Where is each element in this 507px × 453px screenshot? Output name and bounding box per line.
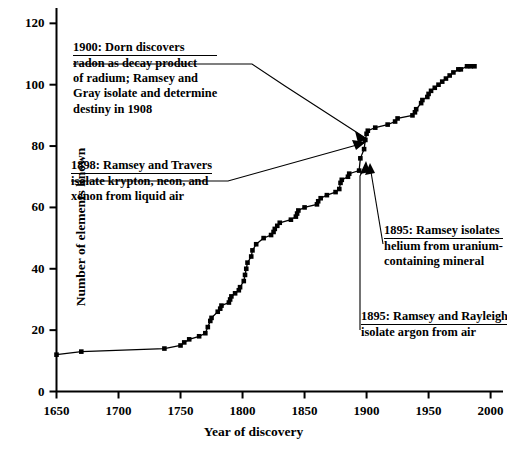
- annotation-helium: 1895: Ramsey isolates helium from uraniu…: [384, 223, 503, 269]
- data-point-marker: [395, 116, 400, 121]
- x-tick-label: 1700: [106, 403, 132, 419]
- annotation-travers-line-1: isolate krypton, neon, and: [71, 174, 212, 189]
- data-point-marker: [366, 128, 371, 133]
- data-point-marker: [420, 98, 425, 103]
- annotation-travers-head: 1898: Ramsey and Travers: [71, 158, 212, 174]
- data-point-marker: [302, 205, 307, 210]
- x-axis-ticks: [57, 392, 491, 399]
- data-point-marker: [197, 334, 202, 339]
- data-point-marker: [219, 303, 224, 308]
- y-tick-label: 120: [0, 15, 45, 31]
- annotation-dorn: 1900: Dorn discovers radon as decay prod…: [73, 40, 217, 117]
- data-point-marker: [238, 285, 243, 290]
- y-tick-label: 60: [0, 199, 45, 215]
- data-point-marker: [357, 168, 362, 173]
- annotation-helium-line-1: helium from uranium-: [384, 239, 503, 254]
- x-tick-label: 1950: [416, 403, 442, 419]
- annotation-travers: 1898: Ramsey and Travers isolate krypton…: [71, 158, 212, 204]
- annotation-dorn-head: 1900: Dorn discovers: [73, 40, 217, 56]
- element-discovery-chart: 020406080100120 165017001750180018501900…: [0, 0, 507, 453]
- leader-line-helium: [370, 166, 383, 244]
- data-point-marker: [54, 352, 59, 357]
- y-axis-ticks: [50, 23, 57, 391]
- annotation-argon-line-1: isolate argon from air: [361, 325, 507, 340]
- data-point-marker: [261, 236, 266, 241]
- data-point-marker: [79, 349, 84, 354]
- data-point-marker: [459, 67, 464, 72]
- annotation-argon: 1895: Ramsey and Rayleigh isolate argon …: [361, 309, 507, 340]
- data-point-marker: [373, 125, 378, 130]
- data-point-marker: [249, 254, 254, 259]
- data-point-marker: [277, 220, 282, 225]
- data-point-marker: [209, 316, 214, 321]
- data-point-marker: [254, 242, 259, 247]
- x-tick-label: 2000: [478, 403, 504, 419]
- y-tick-label: 20: [0, 322, 45, 338]
- annotation-dorn-line-3: Gray isolate and determine: [73, 86, 217, 101]
- x-axis-title: Year of discovery: [204, 424, 303, 440]
- x-tick-label: 1650: [44, 403, 70, 419]
- annotation-helium-line-2: containing mineral: [384, 254, 503, 269]
- data-point-marker: [358, 156, 363, 161]
- data-point-marker: [187, 337, 192, 342]
- data-point-marker: [451, 70, 456, 75]
- data-point-marker: [318, 196, 323, 201]
- x-tick-label: 1850: [292, 403, 318, 419]
- annotation-dorn-line-2: of radium; Ramsey and: [73, 71, 217, 86]
- data-point-marker: [414, 107, 419, 112]
- data-point-marker: [243, 273, 248, 278]
- data-point-marker: [296, 208, 301, 213]
- y-tick-label: 0: [0, 384, 45, 400]
- data-point-marker: [337, 187, 342, 192]
- data-point-marker: [472, 64, 477, 69]
- data-point-marker: [339, 178, 344, 183]
- data-point-marker: [362, 147, 367, 152]
- x-tick-label: 1750: [168, 403, 194, 419]
- y-tick-label: 40: [0, 261, 45, 277]
- data-point-marker: [206, 325, 211, 330]
- annotation-helium-head: 1895: Ramsey isolates: [384, 223, 503, 239]
- annotation-dorn-line-1: radon as decay product: [73, 56, 217, 71]
- data-point-marker: [241, 279, 246, 284]
- x-tick-label: 1900: [354, 403, 380, 419]
- data-point-marker: [250, 248, 255, 253]
- annotation-helium-body: helium from uranium- containing mineral: [384, 239, 503, 269]
- data-point-marker: [347, 171, 352, 176]
- y-tick-label: 100: [0, 77, 45, 93]
- data-point-marker: [245, 260, 250, 265]
- leader-line-argon: [360, 164, 366, 330]
- annotation-travers-body: isolate krypton, neon, and xenon from li…: [71, 174, 212, 204]
- annotation-argon-head: 1895: Ramsey and Rayleigh: [361, 309, 507, 325]
- x-tick-label: 1800: [230, 403, 256, 419]
- data-point-marker: [244, 266, 249, 271]
- y-tick-label: 80: [0, 138, 45, 154]
- data-point-marker: [385, 122, 390, 127]
- data-point-marker: [162, 346, 167, 351]
- annotation-argon-body: isolate argon from air: [361, 325, 507, 340]
- annotation-dorn-body: radon as decay product of radium; Ramsey…: [73, 56, 217, 117]
- data-point-marker: [203, 331, 208, 336]
- data-point-marker: [289, 217, 294, 222]
- annotation-travers-line-2: xenon from liquid air: [71, 189, 212, 204]
- data-point-marker: [182, 340, 187, 345]
- annotation-dorn-line-4: destiny in 1908: [73, 102, 217, 117]
- data-point-marker: [325, 193, 330, 198]
